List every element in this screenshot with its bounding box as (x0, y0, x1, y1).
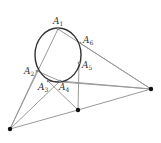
construction-line (78, 89, 151, 110)
vertex-point-a5 (78, 62, 81, 65)
vertex-label-a4: A4 (58, 82, 70, 93)
intersection-point (8, 127, 12, 131)
vertex-label-a2: A2 (23, 66, 35, 77)
intersection-point (76, 108, 80, 112)
vertex-point-a2 (36, 70, 39, 73)
vertex-point-a1 (57, 28, 60, 31)
construction-line (60, 81, 151, 89)
vertex-label-a5: A5 (81, 60, 93, 71)
conic-ellipse (35, 28, 81, 82)
pascal-diagram: A1A2A3A4A5A6 (0, 0, 161, 143)
vertex-label-a1: A1 (52, 16, 63, 27)
construction-line (78, 63, 79, 110)
intersection-point (149, 87, 153, 91)
vertex-point-a6 (79, 42, 82, 45)
construction-line (10, 71, 37, 129)
vertex-point-a3 (47, 80, 50, 83)
vertex-label-a3: A3 (37, 82, 49, 93)
vertex-label-a6: A6 (82, 35, 94, 46)
